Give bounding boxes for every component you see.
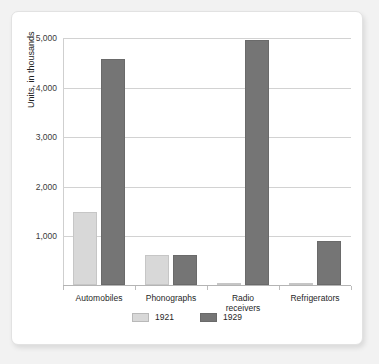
bar-1921-2 bbox=[217, 283, 241, 285]
bar-1929-0 bbox=[101, 59, 125, 285]
y-tick-label-5000: 5,000 bbox=[36, 33, 57, 43]
chart-card: Units, in thousands 1,0002,0003,0004,000… bbox=[11, 11, 363, 345]
category-tick-4 bbox=[351, 286, 352, 290]
category-label-2: Radio receivers bbox=[226, 293, 260, 313]
bar-1929-1 bbox=[173, 255, 197, 285]
bar-1921-1 bbox=[145, 255, 169, 285]
category-label-0: Automobiles bbox=[76, 293, 123, 303]
legend-item-1921[interactable]: 1921 bbox=[132, 312, 174, 322]
category-tick-0 bbox=[63, 286, 64, 290]
y-axis-title: Units, in thousands bbox=[26, 31, 36, 108]
category-tick-1 bbox=[135, 286, 136, 290]
legend-item-1929[interactable]: 1929 bbox=[200, 312, 242, 322]
bar-1921-3 bbox=[289, 283, 313, 285]
chart-legend: 19211929 bbox=[12, 312, 362, 322]
category-label-1: Phonographs bbox=[146, 293, 197, 303]
legend-label-1929: 1929 bbox=[223, 312, 242, 322]
gridline-5000: 5,000 bbox=[63, 38, 351, 39]
y-tick-label-2000: 2,000 bbox=[36, 182, 57, 192]
y-axis-line bbox=[63, 38, 64, 286]
plot-area: 1,0002,0003,0004,0005,000 AutomobilesPho… bbox=[63, 38, 351, 286]
category-tick-2 bbox=[207, 286, 208, 290]
bar-1921-0 bbox=[73, 212, 97, 285]
bar-1929-3 bbox=[317, 241, 341, 285]
category-label-3: Refrigerators bbox=[290, 293, 339, 303]
category-tick-3 bbox=[279, 286, 280, 290]
legend-label-1921: 1921 bbox=[155, 312, 174, 322]
y-tick-label-4000: 4,000 bbox=[36, 83, 57, 93]
legend-swatch-1921 bbox=[132, 313, 149, 322]
legend-swatch-1929 bbox=[200, 313, 217, 322]
y-tick-label-1000: 1,000 bbox=[36, 231, 57, 241]
bar-1929-2 bbox=[245, 40, 269, 285]
y-tick-label-3000: 3,000 bbox=[36, 132, 57, 142]
